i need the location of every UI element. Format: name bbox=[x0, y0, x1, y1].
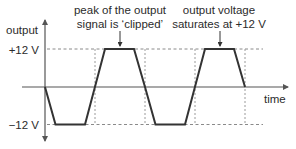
clipping-diagram: output +12 V −12 V time peak of the outp… bbox=[0, 0, 296, 149]
saturates-annotation-line2: saturates at +12 V bbox=[172, 18, 266, 30]
clipped-annotation-line1: peak of the output bbox=[74, 4, 167, 16]
y-axis-label: output bbox=[6, 24, 39, 36]
minus-12v-label: −12 V bbox=[9, 119, 40, 131]
saturates-annotation-line1: output voltage bbox=[183, 4, 255, 16]
x-axis-label: time bbox=[264, 93, 286, 105]
plus-12v-label: +12 V bbox=[9, 44, 40, 56]
clipped-annotation-line2: signal is ‘clipped’ bbox=[77, 18, 163, 30]
